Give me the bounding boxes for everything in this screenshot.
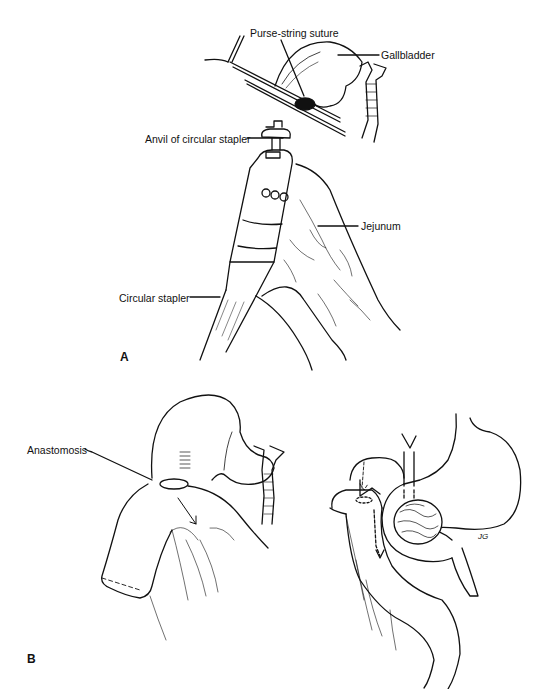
panel-a-drawing bbox=[190, 36, 400, 370]
panel-b-right-drawing bbox=[330, 414, 521, 689]
illustration bbox=[0, 0, 551, 689]
panel-b-left-drawing bbox=[85, 395, 284, 640]
